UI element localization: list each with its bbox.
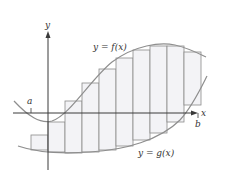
label-g-curve: y = g(x) [137,148,175,158]
rectangle-6 [116,58,133,146]
rectangle-5 [99,69,116,150]
x-axis-arrow-icon [191,111,198,116]
x-axis-label: x [201,108,206,118]
label-a: a [27,96,32,106]
rectangle-7 [133,50,150,140]
label-f-curve: y = f(x) [92,42,127,52]
rectangle-8 [150,46,167,133]
rectangle-10 [184,52,201,105]
approximating-rectangles [31,46,201,153]
y-axis-arrow-icon [46,31,51,38]
rectangle-4 [82,83,99,152]
rectangle-3 [65,101,82,153]
label-b: b [195,119,201,129]
rectangle-9 [167,46,184,122]
rectangle-1 [31,135,48,150]
rectangle-2 [48,122,65,152]
area-between-curves-diagram: y x a b y = f(x) y = g(x) [0,0,228,172]
y-axis-label: y [44,20,51,30]
